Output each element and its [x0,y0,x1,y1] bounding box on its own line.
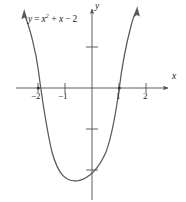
x-tick-label-pos2: 2 [143,92,148,101]
root-marker-neg2 [37,87,40,90]
y-axis-label: y [95,2,99,12]
x-tick-label-neg2: −2 [31,92,41,101]
equation-term3: − 2 [63,14,77,24]
equation-term2: + x [49,14,63,24]
x-tick-label-neg1: −1 [58,92,68,101]
curve-arrow-right [134,6,140,17]
equation-equals: = [32,14,41,24]
plot-canvas [0,0,186,202]
root-marker-pos1 [118,87,121,90]
equation-label: y = x2 + x − 2 [28,15,77,25]
x-axis-label: x [172,72,176,82]
curve-arrow-left [21,9,27,20]
x-tick-label-pos1: 1 [116,92,121,101]
parabola-graph-figure: y = x2 + x − 2 x y −2 −1 1 2 [0,0,186,202]
